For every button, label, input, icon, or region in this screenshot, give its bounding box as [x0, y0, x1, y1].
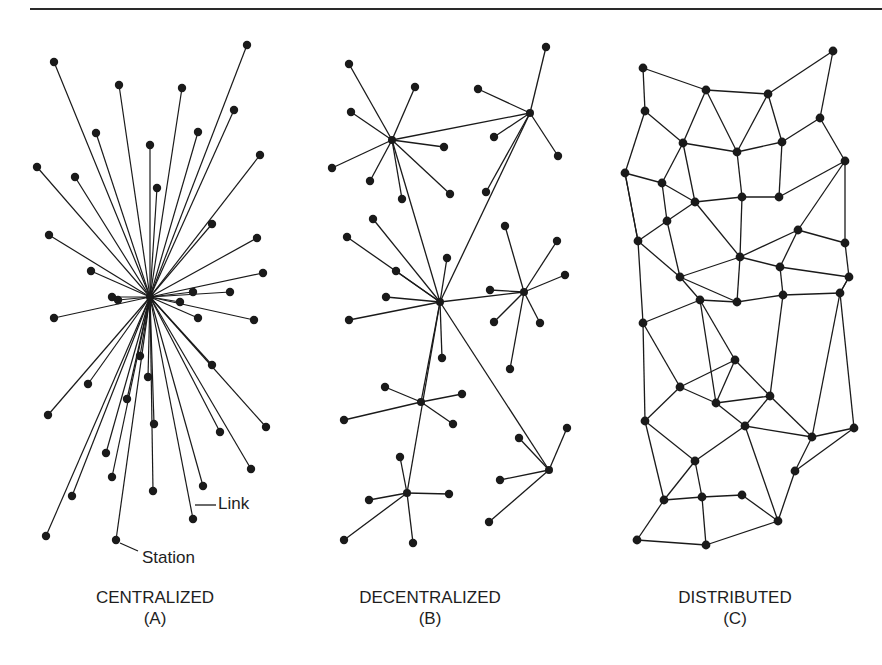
- link: [662, 143, 683, 183]
- station-node: [553, 237, 561, 245]
- link: [407, 302, 440, 493]
- link: [519, 438, 549, 470]
- station-node: [259, 269, 267, 277]
- station-node: [176, 298, 184, 306]
- link: [150, 297, 266, 427]
- station-node: [115, 81, 123, 89]
- station-node: [850, 424, 859, 433]
- link: [75, 177, 150, 297]
- station-node: [561, 271, 569, 279]
- link: [440, 113, 530, 302]
- station-node: [114, 296, 122, 304]
- link: [778, 471, 795, 521]
- link: [780, 267, 849, 277]
- link: [740, 197, 742, 257]
- link: [150, 155, 260, 297]
- link: [683, 143, 695, 202]
- caption-title: DECENTRALIZED: [340, 587, 520, 608]
- link: [150, 132, 198, 297]
- station-node: [199, 482, 207, 490]
- link: [643, 68, 645, 111]
- link: [150, 297, 251, 469]
- station-node: [123, 395, 131, 403]
- link: [625, 111, 645, 173]
- station-node: [42, 532, 50, 540]
- link: [706, 521, 778, 545]
- link: [706, 90, 768, 94]
- link: [840, 293, 854, 428]
- centralized-network: [33, 41, 270, 544]
- link: [768, 94, 782, 142]
- link: [54, 62, 150, 297]
- link: [72, 297, 150, 496]
- hub-node: [526, 109, 534, 117]
- station-node: [621, 169, 630, 178]
- station-node: [702, 86, 711, 95]
- link: [119, 85, 150, 297]
- station-node: [554, 152, 562, 160]
- caption-decentralized: DECENTRALIZED (B): [340, 587, 520, 629]
- link: [700, 300, 737, 302]
- hub-node: [545, 466, 553, 474]
- station-node: [347, 108, 355, 116]
- link: [638, 241, 680, 277]
- station-node: [486, 286, 494, 294]
- link: [680, 387, 716, 403]
- link: [645, 421, 664, 500]
- link: [820, 118, 845, 161]
- link: [440, 302, 442, 358]
- link: [440, 302, 549, 470]
- link: [440, 292, 524, 302]
- station-node: [247, 465, 255, 473]
- station-node: [776, 263, 785, 272]
- link: [478, 89, 530, 113]
- link: [667, 221, 680, 277]
- link: [779, 142, 782, 197]
- link: [116, 297, 150, 540]
- link: [421, 394, 462, 402]
- station-node: [50, 58, 58, 66]
- link: [812, 293, 840, 437]
- station-node: [712, 399, 721, 408]
- station-node: [738, 491, 747, 500]
- caption-letter: (B): [340, 608, 520, 629]
- station-node: [50, 314, 58, 322]
- caption-title: CENTRALIZED: [70, 587, 240, 608]
- station-node: [256, 151, 264, 159]
- station-node: [691, 457, 700, 466]
- link: [150, 238, 257, 297]
- station-node: [194, 128, 202, 136]
- link: [798, 161, 845, 230]
- station-node: [108, 473, 116, 481]
- station-node: [829, 47, 838, 56]
- station-node: [641, 107, 650, 116]
- station-node: [392, 267, 400, 275]
- link: [795, 437, 812, 471]
- station-node: [153, 184, 161, 192]
- station-node: [696, 296, 705, 305]
- station-node: [490, 133, 498, 141]
- link: [783, 293, 840, 295]
- link: [737, 257, 740, 302]
- station-node: [733, 148, 742, 157]
- station-node: [741, 422, 750, 431]
- station-node: [738, 193, 747, 202]
- link: [683, 90, 706, 143]
- link: [643, 323, 645, 421]
- station-node: [639, 319, 648, 328]
- link: [524, 241, 557, 292]
- caption-title: DISTRIBUTED: [660, 587, 810, 608]
- link: [702, 497, 706, 545]
- link: [716, 403, 745, 426]
- link: [392, 140, 440, 302]
- station-node: [68, 492, 76, 500]
- link: [505, 226, 524, 292]
- station-node: [791, 467, 800, 476]
- station-node: [482, 188, 490, 196]
- link: [486, 113, 530, 192]
- station-node: [449, 420, 457, 428]
- link: [680, 277, 700, 300]
- link: [695, 202, 740, 257]
- link: [370, 140, 392, 181]
- link: [782, 118, 820, 142]
